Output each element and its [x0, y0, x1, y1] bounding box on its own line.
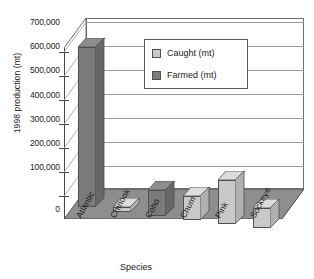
bar-side-face — [95, 38, 105, 208]
legend-swatch-farmed-icon — [152, 71, 161, 80]
bar-side-face — [165, 181, 175, 217]
legend-entry-caught[interactable]: Caught (mt) — [152, 48, 215, 58]
y-tick-label: 600,000 — [30, 41, 60, 51]
legend-swatch-caught-icon — [152, 49, 161, 58]
y-tick-label: 200,000 — [30, 138, 60, 148]
x-axis-tick-labels: Atlantic Chinook Coho Chum Pink Sockeye — [64, 215, 312, 279]
y-tick-label: 500,000 — [30, 65, 60, 75]
x-axis-title: Species — [120, 262, 152, 272]
y-tick-label: 0 — [55, 204, 60, 214]
bar-front-face — [78, 47, 96, 207]
y-tick-label: 700,000 — [30, 17, 60, 27]
bar-atlantic[interactable] — [78, 47, 96, 207]
legend-label-caught: Caught (mt) — [167, 48, 215, 58]
legend-entry-farmed[interactable]: Farmed (mt) — [152, 70, 217, 80]
y-tick-label: 100,000 — [30, 162, 60, 172]
legend-label-farmed: Farmed (mt) — [167, 70, 217, 80]
bar-chart: 1998 production (mt) 700,000 600,000 500… — [0, 0, 314, 279]
y-tick-label: 300,000 — [30, 114, 60, 124]
bar-side-face — [130, 198, 140, 213]
y-tick-label: 400,000 — [30, 90, 60, 100]
y-axis-tick-labels: 700,000 600,000 500,000 400,000 300,000 … — [0, 0, 64, 219]
chart-legend: Caught (mt) Farmed (mt) — [144, 39, 248, 89]
